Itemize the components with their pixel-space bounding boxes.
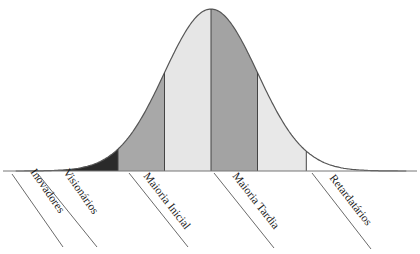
label-maioria-tardia: Maioria Tardia (214, 170, 282, 248)
label-text-maioria-inicial: Maioria Inicial (141, 170, 193, 231)
segment-maioria-tardia (211, 9, 258, 171)
label-text-maioria-tardia: Maioria Tardia (230, 170, 281, 231)
curve-segments (16, 9, 307, 171)
adoption-curve-diagram: Inovadores Visionários Maioria Inicial M… (0, 0, 420, 254)
label-text-visionarios: Visionários (61, 166, 101, 216)
label-inovadores: Inovadores (12, 166, 68, 247)
label-maioria-inicial: Maioria Inicial (129, 170, 193, 247)
segment-maioria-inicial (165, 9, 212, 171)
label-retardatarios: Retardatários (312, 172, 375, 249)
label-text-retardatarios: Retardatários (327, 172, 375, 228)
